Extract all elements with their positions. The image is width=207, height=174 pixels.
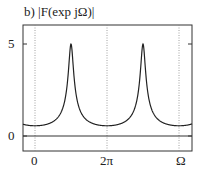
y-tick-0: 0 (8, 128, 15, 144)
plot-area (0, 0, 207, 174)
magnitude-curve (23, 44, 192, 126)
plot-frame (23, 25, 192, 151)
x-tick-0: 0 (31, 153, 38, 169)
x-tick-2pi: 2π (100, 153, 113, 169)
x-axis-label-omega: Ω (176, 153, 186, 169)
y-tick-5: 5 (8, 36, 15, 52)
